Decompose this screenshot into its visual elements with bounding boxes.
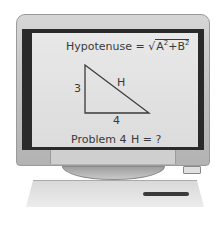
question-text: H = ? [131, 133, 161, 146]
right-triangle-diagram [0, 0, 224, 226]
problem-label: Problem 4 [71, 133, 126, 146]
side-label-vertical: 3 [74, 82, 81, 95]
hypotenuse-label: H [117, 76, 125, 89]
side-label-horizontal: 4 [113, 114, 120, 127]
